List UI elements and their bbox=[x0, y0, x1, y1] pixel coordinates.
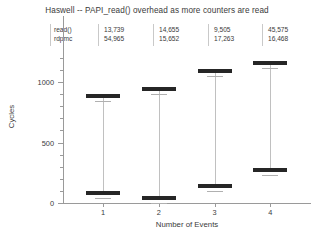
group-stem bbox=[159, 89, 160, 198]
read-marker bbox=[198, 69, 232, 73]
table-divider bbox=[98, 24, 99, 46]
x-tick-label: 4 bbox=[258, 208, 282, 217]
y-tick-minor bbox=[60, 191, 64, 192]
y-axis-title: Cycles bbox=[7, 92, 16, 142]
y-tick-minor bbox=[60, 130, 64, 131]
rdpmc-marker bbox=[198, 184, 232, 188]
table-divider bbox=[262, 24, 263, 46]
group-stem bbox=[103, 96, 104, 193]
group-stem bbox=[215, 71, 216, 186]
y-tick-minor bbox=[60, 179, 64, 180]
whisker bbox=[151, 94, 167, 95]
x-tick bbox=[215, 203, 216, 207]
table-cell: 9,505 bbox=[214, 26, 231, 33]
y-tick-minor bbox=[60, 70, 64, 71]
rdpmc-marker bbox=[253, 168, 287, 172]
y-tick-minor bbox=[60, 167, 64, 168]
table-cell: 13,739 bbox=[104, 26, 124, 33]
x-tick bbox=[270, 203, 271, 207]
table-cell: 17,263 bbox=[214, 35, 234, 42]
y-tick-label: 0 bbox=[24, 199, 54, 208]
y-tick-minor bbox=[60, 118, 64, 119]
x-tick-label: 2 bbox=[147, 208, 171, 217]
table-divider bbox=[153, 24, 154, 46]
whisker bbox=[95, 101, 111, 102]
table-cell: 45,575 bbox=[268, 26, 288, 33]
y-tick-label: 1000 bbox=[24, 78, 54, 87]
whisker bbox=[95, 198, 111, 199]
y-tick-minor bbox=[60, 155, 64, 156]
whisker bbox=[262, 68, 278, 69]
chart-figure: Haswell -- PAPI_read() overhead as more … bbox=[0, 0, 314, 245]
y-tick-major bbox=[58, 82, 64, 83]
whisker bbox=[262, 175, 278, 176]
annotation-table: read() rdpmc 13,739 14,655 9,505 45,575 … bbox=[50, 26, 308, 46]
x-axis-title: Number of Events bbox=[63, 220, 311, 229]
y-axis-labels: 1000 500 0 bbox=[22, 0, 54, 245]
y-tick-minor bbox=[60, 106, 64, 107]
whisker bbox=[207, 76, 223, 77]
x-tick-label: 1 bbox=[91, 208, 115, 217]
y-tick-label: 500 bbox=[24, 139, 54, 148]
table-cell: 16,468 bbox=[268, 35, 288, 42]
table-cell: 15,652 bbox=[159, 35, 179, 42]
x-tick bbox=[103, 203, 104, 207]
y-tick-major bbox=[58, 143, 64, 144]
whisker bbox=[207, 191, 223, 192]
rdpmc-marker bbox=[86, 191, 120, 195]
read-marker bbox=[253, 61, 287, 65]
rdpmc-marker bbox=[142, 196, 176, 200]
read-marker bbox=[86, 94, 120, 98]
y-tick-minor bbox=[60, 58, 64, 59]
table-divider bbox=[208, 24, 209, 46]
y-tick-minor bbox=[60, 94, 64, 95]
read-marker bbox=[142, 87, 176, 91]
group-stem bbox=[270, 63, 271, 170]
y-tick-major bbox=[58, 203, 64, 204]
table-cell: 14,655 bbox=[159, 26, 179, 33]
y-axis-line bbox=[63, 16, 64, 204]
x-axis-line bbox=[63, 203, 311, 204]
table-cell: 54,965 bbox=[104, 35, 124, 42]
x-tick-label: 3 bbox=[203, 208, 227, 217]
whisker bbox=[151, 203, 167, 204]
